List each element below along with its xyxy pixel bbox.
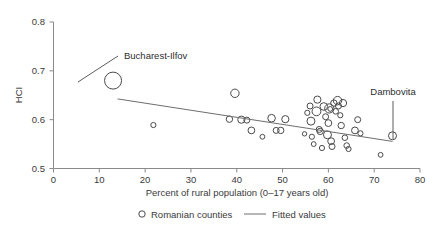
data-point	[389, 132, 397, 140]
x-tick-label: 0	[51, 174, 56, 185]
y-tick-label: 0.7	[32, 65, 45, 76]
data-point	[358, 131, 363, 136]
y-axis-title: HCI	[13, 87, 24, 103]
bucharest-leader-line	[78, 56, 118, 82]
data-point	[320, 103, 328, 111]
x-tick-label: 80	[415, 174, 426, 185]
data-point	[323, 114, 329, 120]
x-axis-title: Percent of rural population (0–17 years …	[146, 187, 329, 198]
data-point	[307, 103, 313, 109]
legend-label-counties: Romanian counties	[151, 209, 233, 220]
data-point	[378, 152, 383, 157]
data-point	[105, 72, 122, 89]
y-tick-label: 0.6	[32, 114, 45, 125]
y-tick-group: 0.50.60.70.8	[32, 16, 54, 174]
data-point	[338, 113, 343, 118]
x-tick-group: 01020304050607080	[51, 169, 425, 186]
data-point	[302, 132, 306, 136]
data-point-group	[105, 72, 397, 157]
x-tick-label: 40	[231, 174, 242, 185]
x-tick-label: 30	[186, 174, 197, 185]
chart-figure: 0.50.60.70.8 HCI 01020304050607080 Perce…	[0, 0, 438, 235]
y-axis: 0.50.60.70.8 HCI	[13, 16, 54, 174]
data-point	[333, 109, 339, 115]
x-axis: 01020304050607080 Percent of rural popul…	[51, 169, 425, 199]
data-point	[319, 145, 324, 150]
annotation-dambovita: Dambovita	[370, 86, 416, 97]
legend-label-fitted: Fitted values	[272, 209, 326, 220]
data-point	[260, 134, 265, 139]
fitted-line-group	[118, 99, 393, 141]
data-point	[248, 127, 255, 134]
fitted-values-line	[118, 99, 393, 141]
data-point	[151, 122, 156, 127]
y-tick-label: 0.8	[32, 16, 45, 27]
legend: Romanian counties Fitted values	[139, 209, 326, 220]
data-point	[268, 114, 276, 122]
x-tick-label: 50	[277, 174, 288, 185]
x-tick-label: 10	[94, 174, 105, 185]
data-point	[311, 142, 316, 147]
data-point	[314, 96, 321, 103]
data-point	[342, 135, 348, 141]
x-tick-label: 60	[323, 174, 334, 185]
annotation-bucharest-ilfov: Bucharest-Ilfov	[124, 50, 188, 61]
data-point	[282, 116, 289, 123]
data-point	[317, 128, 323, 134]
x-tick-label: 70	[369, 174, 380, 185]
data-point	[312, 107, 321, 116]
x-tick-label: 20	[140, 174, 151, 185]
data-point	[328, 107, 333, 112]
data-point	[307, 117, 315, 125]
data-point	[231, 89, 239, 97]
data-point	[278, 127, 284, 133]
legend-marker-counties	[139, 211, 145, 217]
data-point	[355, 117, 361, 123]
data-point	[325, 120, 332, 127]
data-point	[338, 122, 344, 128]
annotation-group: Bucharest-Ilfov Dambovita	[78, 50, 416, 139]
data-point	[309, 134, 314, 139]
y-tick-label: 0.5	[32, 163, 45, 174]
data-point	[352, 127, 359, 134]
scatter-plot-canvas: 0.50.60.70.8 HCI 01020304050607080 Perce…	[0, 0, 438, 235]
data-point	[305, 110, 310, 115]
